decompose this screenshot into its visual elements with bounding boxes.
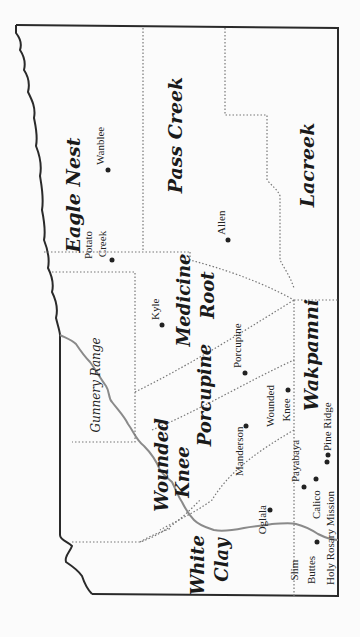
district-pass-creek: Pass Creek [164, 77, 186, 195]
north-border-river [16, 25, 60, 335]
town-dot-payabaya [302, 485, 307, 490]
town-calico: Calico [310, 490, 322, 519]
district-lacreek: Lacreek [296, 123, 318, 209]
town-dot-wounded-knee [286, 388, 291, 393]
town-wanblee: Wanblee [94, 127, 106, 165]
town-holy-rosary-mission: Holy Rosary Mission [324, 490, 336, 585]
district-root: Root [197, 271, 218, 320]
town-dot-kyle [160, 323, 165, 328]
town-dot-potato-creek [110, 258, 115, 263]
town-dot-calico [314, 477, 319, 482]
district-eagle-nest: Eagle Nest [62, 137, 84, 253]
district-medicine: Medicine [173, 253, 194, 347]
town-dot-wanblee [106, 168, 111, 173]
district-porcupine: Porcupine [194, 344, 215, 448]
town-creek: Creek [96, 230, 108, 257]
town-dot-porcupine [243, 371, 248, 376]
town-dot-slim-buttes [315, 540, 320, 545]
reservation-map: Eagle Nest Pass Creek Lacreek Medicine R… [0, 0, 360, 637]
feature-gunnery-range: Gunnery Range [89, 337, 103, 432]
town-dot-pine-ridge [326, 453, 331, 458]
town-potato: Potato [82, 230, 94, 259]
town-kyle: Kyle [149, 299, 161, 321]
town-slim: Slim [288, 559, 300, 580]
town-knee: Knee [280, 398, 292, 421]
town-dot-allen [226, 238, 231, 243]
town-oglala: Oglala [256, 505, 268, 534]
district-clay: Clay [211, 537, 232, 582]
town-manderson: Manderson [233, 426, 245, 476]
town-porcupine: Porcupine [231, 323, 243, 368]
town-dot-holy-rosary-mission [325, 460, 330, 465]
district-knee: Knee [172, 446, 193, 499]
town-allen: Allen [215, 210, 227, 235]
south-west-border-river [60, 535, 92, 594]
district-wakpamni: Wakpamni [300, 299, 322, 411]
town-buttes: Buttes [305, 556, 317, 584]
town-wounded: Wounded [264, 385, 276, 427]
town-payabaya: Payabaya [289, 440, 301, 482]
town-dot-oglala [268, 508, 273, 513]
district-wounded: Wounded [151, 418, 172, 512]
district-white: White [187, 535, 208, 595]
town-pine-ridge: Pine Ridge [321, 402, 333, 451]
